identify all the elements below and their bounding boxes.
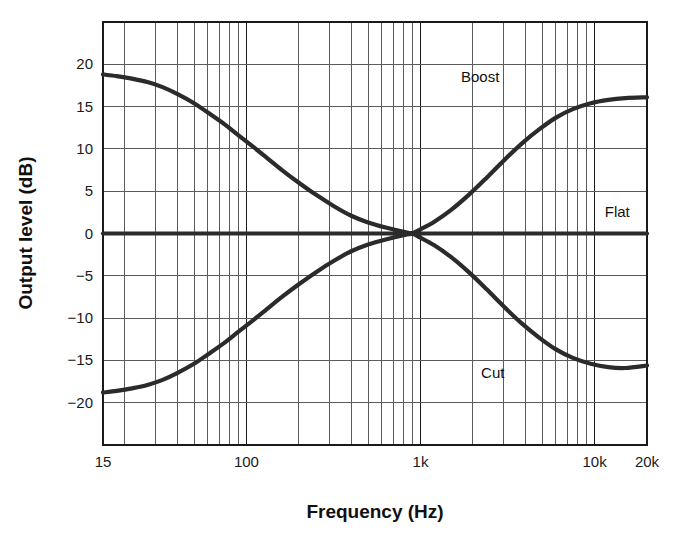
x-tick-label: 20k [635, 453, 660, 470]
y-tick-label: −20 [68, 394, 93, 411]
y-tick-label: −10 [68, 309, 93, 326]
x-tick-label: 15 [95, 453, 112, 470]
chart-canvas: 151001k10k20k 20151050−5−10−15−20 BoostF… [0, 0, 697, 535]
annotation-flat: Flat [605, 203, 631, 220]
y-tick-label: 15 [76, 98, 93, 115]
y-tick-label: −5 [76, 267, 93, 284]
annotation-cut: Cut [481, 364, 505, 381]
y-tick-label: 20 [76, 55, 93, 72]
x-tick-label: 100 [234, 453, 259, 470]
annotation-boost: Boost [461, 68, 500, 85]
x-tick-label: 10k [583, 453, 608, 470]
eq-response-chart: 151001k10k20k 20151050−5−10−15−20 BoostF… [0, 0, 697, 535]
y-tick-label: 10 [76, 140, 93, 157]
x-axis-title: Frequency (Hz) [306, 501, 443, 522]
y-tick-label: −15 [68, 351, 93, 368]
y-tick-label: 0 [85, 225, 93, 242]
x-tick-label: 1k [413, 453, 429, 470]
y-tick-label: 5 [85, 182, 93, 199]
y-axis-title: Output level (dB) [15, 156, 36, 309]
